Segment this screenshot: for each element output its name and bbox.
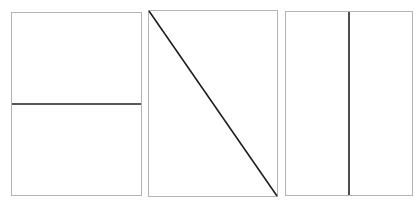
panel-canvas bbox=[286, 12, 412, 195]
panel-canvas bbox=[149, 11, 277, 196]
diagonal-line bbox=[149, 11, 277, 196]
panel-vertical-line: Panel with vertical line bbox=[285, 11, 413, 196]
panel-horizontal-line: Panel with horizontal line bbox=[11, 12, 142, 196]
panel-canvas bbox=[12, 13, 141, 195]
panel-diagonal-line: Panel with diagonal line bbox=[148, 10, 278, 197]
